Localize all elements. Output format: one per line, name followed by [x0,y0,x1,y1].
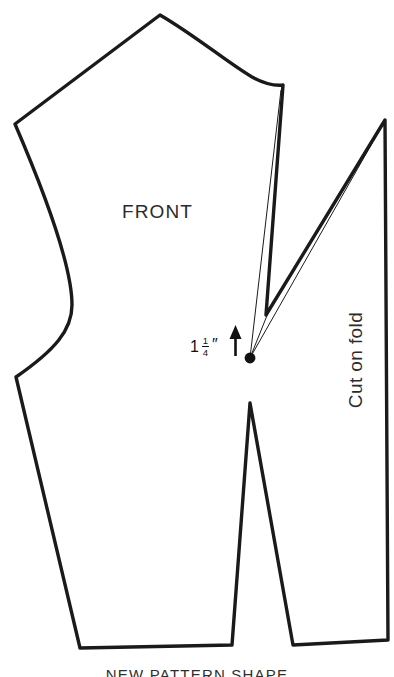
piece-label-front: FRONT [122,202,193,221]
measurement-fraction: 1 4 [202,336,209,357]
measurement-annotation: 1 1 4 ″ [190,336,218,357]
measurement-whole: 1 [190,339,199,355]
fraction-denominator: 4 [203,348,208,358]
inch-mark: ″ [212,337,218,353]
pattern-piece-outline [15,15,388,648]
cut-on-fold-label: Cut on fold [346,312,365,408]
pattern-diagram-figure: FRONT Cut on fold 1 1 4 ″ NEW PATTERN SH… [0,0,394,677]
fraction-numerator: 1 [203,336,208,346]
pivot-dot [245,353,256,364]
figure-caption: NEW PATTERN SHAPE [0,666,394,677]
